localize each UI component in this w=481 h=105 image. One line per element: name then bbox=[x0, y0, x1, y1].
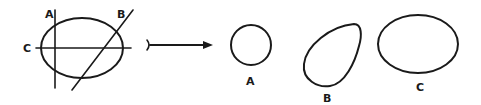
diagram-canvas: A B C A B C bbox=[0, 0, 481, 105]
source-figure: A B C bbox=[23, 8, 133, 90]
section-b-egg bbox=[304, 24, 361, 86]
section-c: C bbox=[378, 15, 458, 94]
section-a: A bbox=[231, 25, 271, 88]
section-c-ellipse bbox=[378, 15, 458, 73]
transform-arrow bbox=[147, 40, 213, 50]
source-label-a: A bbox=[45, 8, 54, 21]
arrow-tail-icon bbox=[147, 40, 149, 50]
section-b: B bbox=[304, 24, 361, 105]
section-c-label: C bbox=[416, 81, 424, 94]
arrow-head-icon bbox=[203, 41, 213, 49]
section-a-label: A bbox=[246, 75, 255, 88]
section-b-label: B bbox=[323, 92, 331, 105]
source-label-c: C bbox=[23, 42, 31, 55]
source-label-b: B bbox=[117, 8, 125, 21]
section-a-circle bbox=[231, 25, 271, 65]
